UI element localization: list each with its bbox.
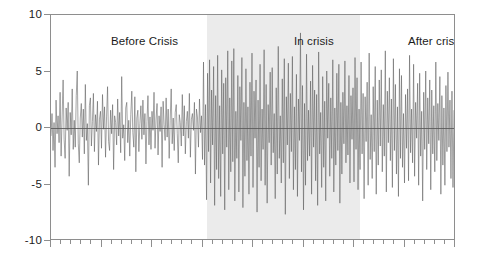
- x-tick-minor: [333, 240, 334, 244]
- residual-series: [51, 15, 454, 239]
- x-tick-minor: [90, 240, 91, 244]
- x-tick-minor: [80, 240, 81, 244]
- x-tick-minor: [161, 240, 162, 244]
- x-tick-minor: [262, 240, 263, 244]
- annotation-in-crisis: In crisis: [294, 35, 334, 47]
- x-tick-major: [151, 240, 152, 247]
- y-tick-mark: [44, 14, 50, 15]
- x-tick-minor: [131, 240, 132, 244]
- x-tick-major: [454, 240, 455, 247]
- x-tick-minor: [191, 240, 192, 244]
- y-tick-label: 5: [8, 65, 42, 77]
- x-tick-minor: [242, 240, 243, 244]
- plot-area: Before Crisis In crisis After crisis: [50, 14, 455, 240]
- x-tick-minor: [181, 240, 182, 244]
- x-tick-minor: [171, 240, 172, 244]
- chart-figure: 1050-5-10 Before Crisis In crisis After …: [0, 0, 477, 262]
- x-tick-minor: [232, 240, 233, 244]
- x-tick-minor: [373, 240, 374, 244]
- x-tick-major: [252, 240, 253, 247]
- x-tick-minor: [323, 240, 324, 244]
- x-tick-major: [404, 240, 405, 247]
- y-axis: 1050-5-10: [0, 0, 42, 262]
- x-tick-minor: [393, 240, 394, 244]
- annotation-before-crisis: Before Crisis: [111, 35, 178, 47]
- x-axis-ticks: [50, 240, 455, 250]
- x-tick-minor: [292, 240, 293, 244]
- y-tick-label: -5: [8, 178, 42, 190]
- y-tick-mark: [44, 184, 50, 185]
- x-tick-minor: [414, 240, 415, 244]
- x-tick-minor: [282, 240, 283, 244]
- x-tick-minor: [141, 240, 142, 244]
- x-tick-major: [353, 240, 354, 247]
- series-polyline: [51, 33, 454, 214]
- y-tick-mark: [44, 240, 50, 241]
- x-tick-minor: [383, 240, 384, 244]
- x-tick-minor: [424, 240, 425, 244]
- x-tick-minor: [343, 240, 344, 244]
- y-tick-mark: [44, 127, 50, 128]
- x-tick-minor: [212, 240, 213, 244]
- x-tick-minor: [222, 240, 223, 244]
- y-tick-label: -10: [8, 234, 42, 246]
- y-tick-label: 0: [8, 121, 42, 133]
- x-tick-minor: [121, 240, 122, 244]
- x-tick-major: [101, 240, 102, 247]
- x-tick-minor: [434, 240, 435, 244]
- annotation-after-crisis: After crisis: [408, 35, 455, 47]
- x-tick-major: [202, 240, 203, 247]
- x-tick-minor: [444, 240, 445, 244]
- y-tick-label: 10: [8, 8, 42, 20]
- x-tick-minor: [111, 240, 112, 244]
- x-tick-minor: [363, 240, 364, 244]
- x-tick-minor: [70, 240, 71, 244]
- x-tick-minor: [60, 240, 61, 244]
- x-tick-minor: [272, 240, 273, 244]
- x-tick-major: [50, 240, 51, 247]
- x-tick-minor: [313, 240, 314, 244]
- x-tick-major: [303, 240, 304, 247]
- y-tick-mark: [44, 71, 50, 72]
